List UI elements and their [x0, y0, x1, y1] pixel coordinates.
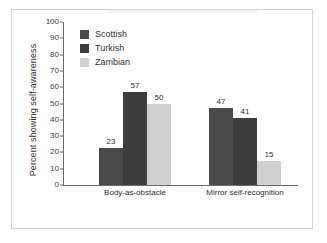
x-axis-label: Body-as-obstacle	[104, 188, 166, 197]
y-tick-mark	[60, 136, 63, 137]
legend-item-zambian[interactable]: Zambian	[80, 55, 130, 69]
bar-scottish-1[interactable]: 47	[209, 108, 233, 185]
legend-item-turkish[interactable]: Turkish	[80, 41, 130, 55]
bar-value-label: 47	[217, 98, 226, 106]
y-tick-label: 100	[46, 18, 59, 26]
legend-swatch-icon	[80, 44, 89, 53]
y-tick-label: 50	[50, 100, 59, 108]
bar-value-label: 23	[107, 138, 116, 146]
y-tick-mark	[60, 54, 63, 55]
y-tick-label: 0	[55, 181, 59, 189]
y-tick-mark	[60, 87, 63, 88]
top-crop-artifact	[107, 10, 257, 13]
y-tick-label: 90	[50, 34, 59, 42]
bar-turkish-0[interactable]: 57	[123, 92, 147, 185]
y-axis-title: Percent showing self-awareness	[26, 30, 40, 190]
y-tick-mark	[60, 103, 63, 104]
y-tick-mark	[60, 168, 63, 169]
legend-label: Turkish	[95, 44, 124, 53]
x-axis-line	[63, 185, 298, 186]
y-tick-mark	[60, 38, 63, 39]
y-tick-label: 60	[50, 83, 59, 91]
y-tick-label: 10	[50, 165, 59, 173]
bar-zambian-0[interactable]: 50	[147, 104, 171, 186]
y-tick-label: 40	[50, 116, 59, 124]
x-axis-label: Mirror self-recognition	[206, 188, 283, 197]
bar-scottish-0[interactable]: 23	[99, 148, 123, 185]
y-tick-label: 30	[50, 132, 59, 140]
figure-frame: Percent showing self-awareness 100908070…	[11, 9, 313, 229]
bar-value-label: 41	[241, 108, 250, 116]
legend-swatch-icon	[80, 58, 89, 67]
y-axis-title-text: Percent showing self-awareness	[28, 44, 38, 177]
legend-label: Scottish	[95, 30, 127, 39]
y-tick-mark	[60, 152, 63, 153]
legend-label: Zambian	[95, 58, 130, 67]
y-tick-mark	[60, 70, 63, 71]
legend-item-scottish[interactable]: Scottish	[80, 27, 130, 41]
y-tick-mark	[60, 22, 63, 23]
y-axis-line	[63, 22, 64, 185]
y-tick-mark	[60, 185, 63, 186]
y-tick-label: 70	[50, 67, 59, 75]
y-tick-label: 80	[50, 51, 59, 59]
bar-value-label: 57	[131, 82, 140, 90]
bar-value-label: 15	[265, 151, 274, 159]
bar-turkish-1[interactable]: 41	[233, 118, 257, 185]
bar-value-label: 50	[155, 94, 164, 102]
y-tick-mark	[60, 119, 63, 120]
y-tick-label: 20	[50, 148, 59, 156]
legend: ScottishTurkishZambian	[80, 27, 130, 69]
bar-zambian-1[interactable]: 15	[257, 161, 281, 185]
legend-swatch-icon	[80, 30, 89, 39]
